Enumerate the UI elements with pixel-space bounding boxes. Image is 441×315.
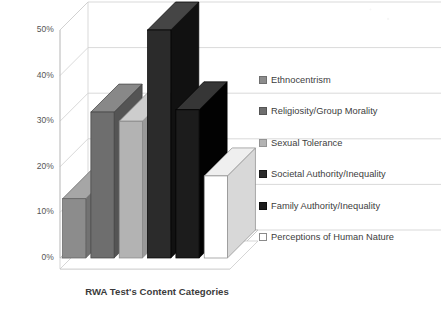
- axis-tick-label: 30%: [20, 115, 54, 125]
- legend-item-label: Ethnocentrism: [271, 75, 331, 85]
- legend-item-label: Religiosity/Group Morality: [271, 106, 377, 116]
- legend-item-label: Family Authority/Inequality: [271, 201, 380, 211]
- chart-title: RWA Test's Content Categories: [52, 286, 262, 297]
- legend-item[interactable]: Sexual Tolerance: [259, 127, 439, 159]
- legend-swatch-icon: [259, 202, 267, 210]
- legend-item[interactable]: Perceptions of Human Nature: [259, 222, 439, 254]
- chart-container: 50%40%30%20%10%0% EthnocentrismReligiosi…: [0, 0, 441, 315]
- legend-item-label: Sexual Tolerance: [271, 138, 342, 148]
- legend-swatch-icon: [259, 139, 267, 147]
- legend-item-label: Perceptions of Human Nature: [271, 232, 394, 242]
- axis-tick-label: 50%: [20, 24, 54, 34]
- legend-item[interactable]: Family Authority/Inequality: [259, 190, 439, 222]
- bar-group: [63, 2, 256, 258]
- legend-swatch-icon: [259, 107, 267, 115]
- axis-tick-label: 10%: [20, 206, 54, 216]
- axis-tick-label: 0%: [20, 252, 54, 262]
- legend-item[interactable]: Ethnocentrism: [259, 64, 439, 96]
- axis-tick-label: 20%: [20, 161, 54, 171]
- chart-legend: EthnocentrismReligiosity/Group MoralityS…: [259, 64, 439, 253]
- legend-item[interactable]: Societal Authority/Inequality: [259, 159, 439, 191]
- legend-item[interactable]: Religiosity/Group Morality: [259, 96, 439, 128]
- legend-swatch-icon: [259, 170, 267, 178]
- axis-tick-label: 40%: [20, 70, 54, 80]
- legend-swatch-icon: [259, 233, 267, 241]
- legend-swatch-icon: [259, 76, 267, 84]
- legend-item-label: Societal Authority/Inequality: [271, 169, 386, 179]
